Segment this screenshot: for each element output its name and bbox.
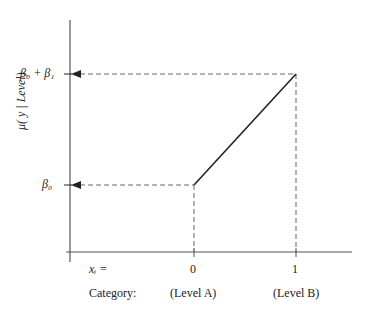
category-level-b: (Level B) bbox=[273, 286, 319, 301]
y-axis-label: μ( y | Level) bbox=[14, 72, 29, 130]
arrow-icon bbox=[71, 70, 81, 78]
category-label: Category: bbox=[89, 286, 136, 301]
x-label: xᵢ = bbox=[89, 262, 107, 277]
y-tick-label-b0: β₀ bbox=[42, 177, 52, 192]
arrow-icon bbox=[71, 181, 81, 189]
x-tick-label-1: 1 bbox=[292, 262, 298, 277]
category-level-a: (Level A) bbox=[170, 286, 216, 301]
response-line bbox=[194, 74, 296, 185]
y-tick-label-b0-b1: β₀ + β₁ bbox=[20, 66, 54, 81]
x-tick-label-0: 0 bbox=[190, 262, 196, 277]
diagram-canvas bbox=[0, 0, 371, 313]
